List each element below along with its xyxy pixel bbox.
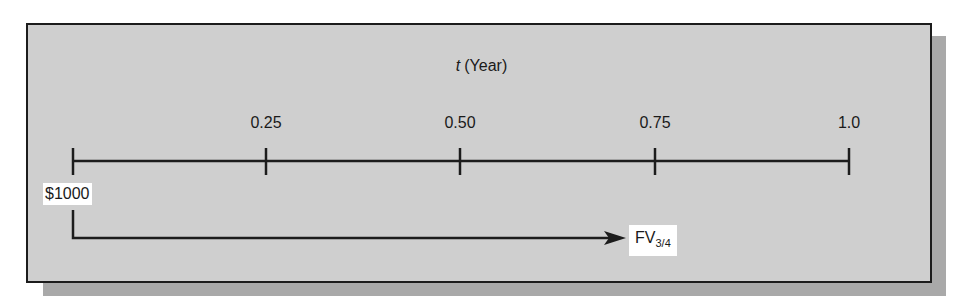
fv-main: FV [635,229,655,246]
start-value-label: $1000 [43,183,92,205]
timeline-lines [0,0,963,305]
compounding-arrow-line [73,210,612,238]
fv-subscript: 3/4 [655,237,670,249]
future-value-label: FV3/4 [629,225,677,256]
